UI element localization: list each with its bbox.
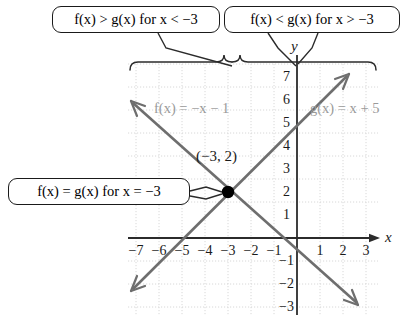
function-label-g: g(x) = x + 5 [310, 100, 380, 117]
x-tick--5: −5 [175, 243, 190, 259]
y-axis-label: y [291, 38, 298, 55]
x-tick-2: 2 [340, 243, 347, 259]
leader-right-callout-2 [298, 33, 318, 64]
y-tick-2: 2 [274, 184, 290, 200]
y-tick-4: 4 [274, 138, 290, 154]
x-tick--4: −4 [198, 243, 213, 259]
y-tick--3: −3 [272, 299, 294, 315]
callout-f-less-than-g: f(x) < g(x) for x > −3 [224, 6, 400, 33]
region-braces [130, 55, 376, 70]
x-axis-label: x [385, 229, 392, 246]
leader-eq-callout [190, 187, 222, 192]
x-tick-3: 3 [363, 243, 370, 259]
intersection-point [222, 186, 234, 198]
y-tick-5: 5 [274, 115, 290, 131]
leader-eq-callout-2 [190, 194, 222, 199]
intersection-coordinate-label: (−3, 2) [196, 148, 237, 165]
x-tick-1: 1 [317, 243, 324, 259]
callout-f-greater-than-g: f(x) > g(x) for x < −3 [52, 6, 220, 33]
y-tick--2: −2 [272, 276, 294, 292]
y-tick--1: −1 [272, 253, 294, 269]
y-tick-3: 3 [274, 161, 290, 177]
x-tick--6: −6 [152, 243, 167, 259]
x-tick--3: −3 [221, 243, 236, 259]
graph-figure: f(x) > g(x) for x < −3 f(x) < g(x) for x… [0, 0, 414, 324]
y-tick-1: 1 [274, 207, 290, 223]
y-tick-6: 6 [274, 92, 290, 108]
callout-f-equals-g: f(x) = g(x) for x = −3 [8, 178, 190, 205]
y-tick-7: 7 [274, 69, 290, 85]
x-tick--2: −2 [244, 243, 259, 259]
x-axis-arrow [369, 234, 380, 242]
x-tick--7: −7 [129, 243, 144, 259]
function-label-f: f(x) = −x − 1 [154, 100, 229, 117]
